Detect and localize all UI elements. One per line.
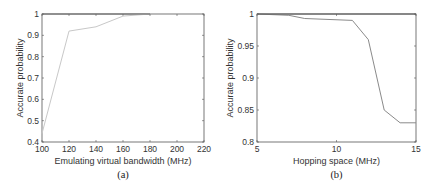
y-tick-label: 0.9 [242, 73, 254, 83]
y-tick-label: 0.8 [27, 52, 39, 62]
y-tick-label: 0.8 [242, 137, 254, 147]
y-tick-label: 0.7 [27, 73, 39, 83]
figure-caption: (b) [330, 169, 343, 181]
x-tick-label: 200 [170, 144, 184, 154]
chart-b: 510150.80.850.90.951Hopping space (MHz)A… [219, 0, 438, 191]
y-tick-label: 0.5 [27, 116, 39, 126]
data-line [42, 14, 150, 134]
x-axis-label: Hopping space (MHz) [293, 156, 380, 166]
x-tick-label: 160 [116, 144, 130, 154]
y-tick-label: 0.9 [27, 30, 39, 40]
chart-a: 1001201401601802002200.40.50.60.70.80.91… [0, 0, 219, 191]
y-tick-label: 1 [249, 9, 254, 19]
y-tick-label: 0.85 [237, 105, 254, 115]
chart-b-canvas: 510150.80.850.90.951Hopping space (MHz)A… [219, 0, 438, 191]
y-tick-label: 1 [34, 9, 39, 19]
y-tick-label: 0.6 [27, 94, 39, 104]
plot-area [42, 14, 204, 142]
x-tick-label: 180 [143, 144, 157, 154]
x-tick-label: 120 [62, 144, 76, 154]
x-tick-label: 10 [332, 144, 342, 154]
plot-area [257, 14, 416, 142]
x-axis-label: Emulating virtual bandwidth (MHz) [54, 156, 191, 166]
y-tick-label: 0.95 [237, 41, 254, 51]
x-tick-label: 220 [197, 144, 211, 154]
y-axis-label: Accurate probability [15, 38, 25, 118]
x-tick-label: 140 [89, 144, 103, 154]
x-tick-label: 5 [255, 144, 260, 154]
figure-caption: (a) [117, 169, 129, 181]
y-tick-label: 0.4 [27, 137, 39, 147]
y-axis-label: Accurate probability [225, 38, 235, 118]
chart-a-canvas: 1001201401601802002200.40.50.60.70.80.91… [0, 0, 219, 191]
data-line [257, 14, 416, 123]
x-tick-label: 15 [411, 144, 421, 154]
